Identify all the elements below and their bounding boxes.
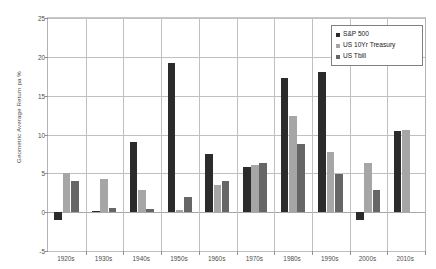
legend-label: S&P 500 [343,31,369,38]
x-tick-mark [312,251,313,255]
x-axis-label: 2010s [396,255,413,262]
bar [214,185,222,212]
x-axis-label: 1920s [57,255,74,262]
y-tick-label: 20 [38,53,45,60]
legend-item: S&P 500 [336,29,418,40]
bar [364,163,372,212]
bar [184,197,192,213]
x-tick-mark [425,251,426,255]
x-tick-mark [350,251,351,255]
bar-chart: Geometric Average Return pa % 2520151050… [0,0,436,269]
y-tick-mark [45,212,48,213]
bar [318,72,326,212]
category-separator [161,18,162,251]
x-axis-label: 1940s [133,255,150,262]
chart-legend: S&P 500US 10Yr TreasuryUS Tbill [331,25,423,66]
bar [63,173,71,212]
y-tick-label: 15 [38,92,45,99]
category-separator [237,18,238,251]
category-separator [199,18,200,251]
x-tick-mark [199,251,200,255]
bar [289,116,297,212]
bar [130,142,138,212]
bar [92,211,100,212]
bar [109,208,117,213]
bar [176,210,184,212]
bar [222,181,230,212]
legend-swatch [336,55,340,59]
x-axis-label: 1960s [208,255,225,262]
bar [402,130,410,212]
x-axis-label: 1950s [170,255,187,262]
y-tick-label: 0 [41,209,45,216]
y-tick-label: -5 [39,248,45,255]
x-tick-mark [274,251,275,255]
y-axis-title: Geometric Average Return pa % [12,2,26,232]
x-axis-label: 1980s [283,255,300,262]
y-tick-mark [45,173,48,174]
bar [168,63,176,212]
y-tick-mark [45,135,48,136]
bar [373,190,381,212]
x-tick-mark [237,251,238,255]
bar [327,152,335,212]
bar [251,165,259,212]
bar [243,167,251,212]
legend-label: US 10Yr Treasury [343,42,395,49]
bar [138,190,146,213]
x-tick-mark [387,251,388,255]
legend-item: US Tbill [336,51,418,62]
y-tick-label: 5 [41,170,45,177]
bar [335,174,343,212]
x-axis-label: 2000s [359,255,376,262]
category-separator [123,18,124,251]
bar [297,144,305,212]
category-separator [274,18,275,251]
bar [356,212,364,220]
bar [394,131,402,213]
y-tick-mark [45,251,48,252]
y-tick-label: 10 [38,131,45,138]
bar [259,163,267,212]
x-axis-label: 1930s [95,255,112,262]
legend-label: US Tbill [343,53,366,60]
bar [100,179,108,212]
bar [146,209,154,212]
bar [281,78,289,212]
category-separator [312,18,313,251]
legend-swatch [336,33,340,37]
y-tick-mark [45,57,48,58]
y-tick-label: 25 [38,15,45,22]
x-tick-mark [123,251,124,255]
bar [71,181,79,212]
y-tick-mark [45,96,48,97]
category-separator [86,18,87,251]
bar [205,154,213,212]
x-axis-label: 1970s [246,255,263,262]
x-axis-label: 1990s [321,255,338,262]
legend-swatch [336,44,340,48]
x-tick-mark [161,251,162,255]
bar [54,212,62,220]
legend-item: US 10Yr Treasury [336,40,418,51]
x-tick-mark [86,251,87,255]
y-tick-mark [45,18,48,19]
